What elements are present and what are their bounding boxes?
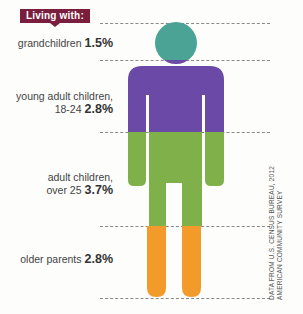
segment-older-parents bbox=[120, 226, 230, 301]
source-note: DATA FROM U.S. CENSUS BUREAU, 2012 AMERI… bbox=[268, 166, 284, 300]
segment-adult bbox=[120, 132, 230, 226]
label-adult-children: adult children, over 253.7% bbox=[46, 171, 113, 197]
label-young-adult-children: young adult children, 18-242.8% bbox=[16, 90, 113, 116]
segment-grandchildren bbox=[120, 20, 230, 60]
value-adult-children: 3.7% bbox=[85, 183, 114, 197]
value-grandchildren: 1.5% bbox=[85, 36, 114, 50]
value-older-parents: 2.8% bbox=[85, 252, 114, 266]
label-grandchildren: grandchildren1.5% bbox=[18, 37, 113, 50]
segment-young-adult bbox=[120, 60, 230, 132]
value-young-adult-children: 2.8% bbox=[85, 102, 114, 116]
label-older-parents: older parents2.8% bbox=[20, 253, 113, 266]
